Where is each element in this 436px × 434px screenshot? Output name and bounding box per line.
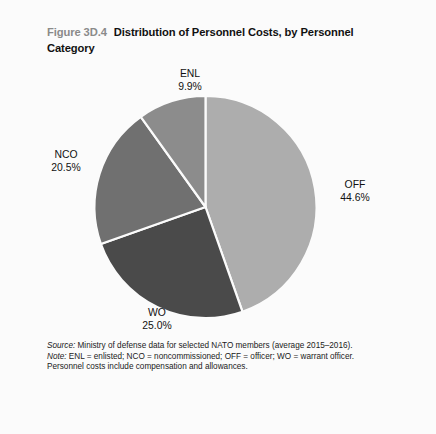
pie-label-off-category: OFF — [318, 178, 392, 191]
source-note-text: Ministry of defense data for selected NA… — [75, 341, 352, 350]
source-note-lead: Source: — [47, 341, 75, 350]
definition-note: Note: ENL = enlisted; NCO = noncommissio… — [47, 352, 383, 373]
pie-slice-group — [95, 96, 317, 318]
pie-label-nco: NCO 20.5% — [29, 148, 103, 174]
figure-notes: Source: Ministry of defense data for sel… — [47, 341, 383, 373]
definition-note-text: ENL = enlisted; NCO = noncommissioned; O… — [47, 352, 354, 372]
pie-label-enl-value: 9.9% — [155, 80, 225, 93]
pie-label-wo: WO 25.0% — [120, 306, 194, 332]
pie-label-wo-value: 25.0% — [120, 319, 194, 332]
figure-container: Figure 3D.4Distribution of Personnel Cos… — [0, 0, 436, 434]
pie-label-enl: ENL 9.9% — [155, 67, 225, 93]
pie-label-off: OFF 44.6% — [318, 178, 392, 204]
pie-label-wo-category: WO — [120, 306, 194, 319]
source-note: Source: Ministry of defense data for sel… — [47, 341, 383, 352]
pie-label-nco-value: 20.5% — [29, 161, 103, 174]
pie-label-off-value: 44.6% — [318, 191, 392, 204]
pie-label-enl-category: ENL — [155, 67, 225, 80]
pie-label-nco-category: NCO — [29, 148, 103, 161]
definition-note-lead: Note: — [47, 352, 67, 361]
